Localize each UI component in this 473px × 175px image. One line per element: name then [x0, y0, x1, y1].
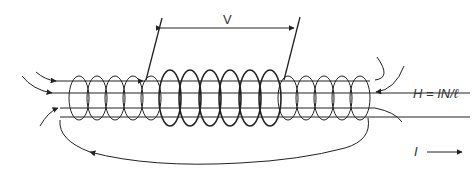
current-label: I	[414, 144, 418, 159]
lead-right	[284, 17, 300, 80]
return-path-start	[60, 120, 90, 152]
voltage-label: V	[223, 12, 232, 27]
lead-left	[146, 18, 162, 80]
return-path	[90, 118, 369, 164]
search-coil[interactable]	[159, 70, 281, 126]
solenoid-diagram	[0, 0, 473, 175]
field-equation-label: H = IN/ℓ	[413, 86, 458, 101]
